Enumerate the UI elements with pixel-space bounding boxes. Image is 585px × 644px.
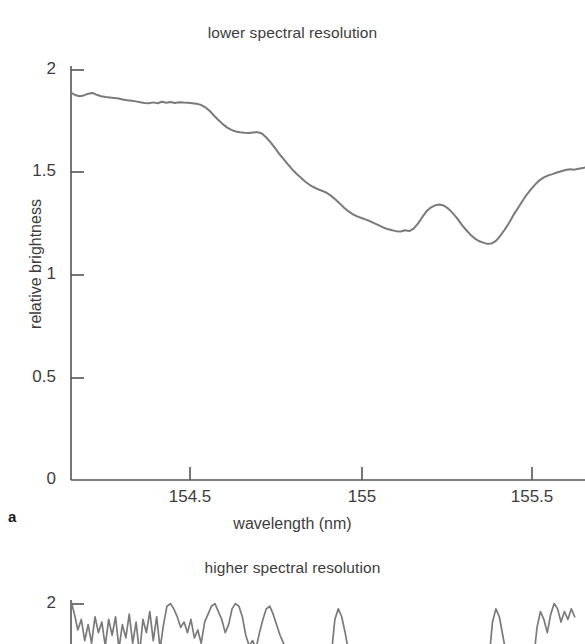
y-axis-title: relative brightness [27,154,45,374]
panel-b-plot [0,545,585,644]
y-tick-marks [71,70,84,378]
panel-b: higher spectral resolution 2 [0,545,585,644]
y-tick-label-2: 2 [16,59,56,79]
spectrum-line-higher-resolution [71,601,575,644]
x-tick-label-155: 155 [322,487,402,507]
y-tick-label-0: 0 [16,469,56,489]
panel-label-a: a [8,508,16,525]
x-tick-marks [190,467,532,480]
x-tick-label-154p5: 154.5 [140,487,240,507]
x-axis-title: wavelength (nm) [0,515,585,533]
spectral-resolution-figure: lower spectral resolution 2 1.5 1 [0,0,585,644]
y-tick-label-b-2: 2 [16,593,56,613]
panel-a: lower spectral resolution 2 1.5 1 [0,0,585,545]
panel-a-plot [0,0,585,545]
x-tick-label-155p5: 155.5 [482,487,582,507]
spectrum-line-lower-resolution [71,93,585,244]
